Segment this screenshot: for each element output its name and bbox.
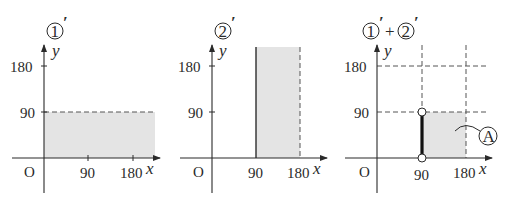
svg-text:+: + — [385, 22, 395, 41]
origin-label: O — [359, 164, 370, 180]
open-endpoint-bottom — [418, 154, 426, 162]
diagram-canvas: 180 90 O 90 180 x y 1 ′ 180 90 O 90 180 … — [0, 0, 507, 203]
y-axis-label: y — [50, 41, 60, 60]
origin-label: O — [24, 164, 35, 180]
y-axis-label: y — [382, 41, 392, 60]
x-tick-label-90: 90 — [248, 165, 263, 181]
svg-text:′: ′ — [231, 13, 236, 32]
panel-title: 1 ′ — [47, 13, 68, 41]
x-tick-label-180: 180 — [120, 165, 143, 181]
svg-text:′: ′ — [414, 13, 419, 32]
shaded-region-A — [422, 112, 466, 158]
y-tick-label-90: 90 — [188, 105, 203, 121]
shaded-region-band — [256, 47, 300, 158]
panel-title: 2 ′ — [215, 13, 236, 41]
panel-2: 180 90 O 90 180 x y 2 ′ — [178, 13, 327, 193]
y-tick-label-90: 90 — [20, 105, 35, 121]
y-tick-label-180: 180 — [178, 59, 201, 75]
y-axis-label: y — [217, 41, 227, 60]
origin-label: O — [193, 164, 204, 180]
panel-1: 180 90 O 90 180 x y 1 ′ — [10, 13, 160, 193]
x-tick-label-180: 180 — [453, 165, 476, 181]
x-tick-label-90: 90 — [80, 165, 95, 181]
x-axis-label: x — [312, 159, 321, 178]
region-label-A: A — [479, 127, 497, 146]
y-tick-label-180: 180 — [10, 59, 33, 75]
svg-text:′: ′ — [379, 13, 384, 32]
open-endpoint-top — [418, 108, 426, 116]
x-axis-label: x — [478, 159, 487, 178]
panel-3: A 180 90 O 90 180 x y 1 ′ + 2 ′ — [344, 13, 497, 193]
panel-title: 1 ′ + 2 ′ — [363, 13, 419, 41]
svg-text:′: ′ — [63, 13, 68, 32]
svg-text:A: A — [483, 127, 496, 146]
svg-text:1: 1 — [51, 22, 60, 41]
svg-text:1: 1 — [367, 22, 376, 41]
svg-text:2: 2 — [402, 22, 411, 41]
svg-text:2: 2 — [219, 22, 228, 41]
x-tick-label-180: 180 — [287, 165, 310, 181]
y-tick-label-180: 180 — [344, 59, 367, 75]
shaded-region-band — [44, 112, 155, 158]
x-axis-label: x — [145, 159, 154, 178]
x-tick-label-90: 90 — [414, 167, 429, 183]
y-tick-label-90: 90 — [354, 105, 369, 121]
